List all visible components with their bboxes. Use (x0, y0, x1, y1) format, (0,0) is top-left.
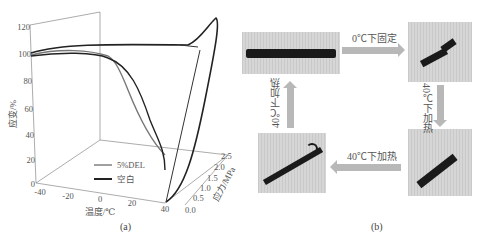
arrow-left (337, 164, 401, 171)
arrow-left-head (330, 160, 337, 174)
x-tick: -40 (34, 187, 45, 197)
series-5pct-del (31, 51, 165, 155)
y-tick: 40 (26, 130, 35, 140)
z-tick: 1.5 (207, 173, 218, 183)
legend-5pct-del: 5%DEL (117, 160, 145, 170)
series-blank-return (31, 53, 165, 170)
x-tick: 0 (98, 194, 102, 204)
step-label-heat-40c-down: 40℃下加热 (419, 83, 434, 133)
z-tick: 0.0 (185, 205, 196, 215)
legend-blank: 空白 (117, 174, 135, 184)
step-label-heat-40c-up: 40℃下加热 (268, 78, 283, 128)
x-tick: -20 (62, 191, 73, 201)
y-tick: 100 (18, 49, 31, 59)
x-axis-label: 温度/℃ (85, 206, 116, 217)
photo-heated-step2 (258, 133, 326, 193)
z-tick: 0.5 (193, 193, 204, 203)
arrow-up (287, 88, 294, 128)
y-tick: 20 (27, 155, 36, 165)
arrow-down (437, 85, 444, 121)
y-tick: 60 (25, 104, 34, 114)
arrow-up-head (283, 81, 297, 88)
y-axis-label: 应变/% (7, 99, 18, 128)
step-label-heat-40c-left: 40℃下加热 (347, 148, 397, 163)
photo-heated-step1 (408, 129, 472, 196)
z-tick: 2.5 (221, 151, 232, 161)
arrow-down-head (433, 120, 447, 127)
x-tick: 40 (161, 204, 170, 214)
caption-a: (a) (120, 221, 131, 232)
step-label-fix-0c: 0℃下固定 (352, 30, 397, 45)
x-tick: 20 (128, 198, 137, 208)
photo-straight-sample (242, 32, 340, 74)
figure: 120 100 80 60 40 20 0 -40 -20 0 20 40 0.… (0, 0, 481, 239)
photo-fixed-shape (408, 22, 472, 82)
caption-b: (b) (371, 221, 383, 232)
y-tick: 80 (24, 76, 33, 86)
z-tick: 2.0 (214, 162, 225, 172)
y-tick: 120 (17, 22, 30, 32)
arrow-right (342, 47, 400, 54)
strain-temperature-stress-3d-plot: 120 100 80 60 40 20 0 -40 -20 0 20 40 0.… (0, 0, 245, 239)
z-tick: 1.0 (200, 183, 211, 193)
arrow-right-head (398, 43, 405, 57)
